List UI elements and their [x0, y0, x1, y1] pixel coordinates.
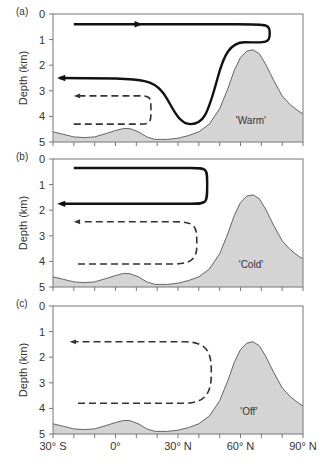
x-tick-label: 0° — [110, 440, 121, 452]
y-tick-label: 3 — [39, 85, 45, 97]
arrow-left-icon — [57, 201, 65, 207]
panel-a: 012345Depth (km)(a)'Warm' — [16, 6, 303, 148]
x-tick-label: 30° S — [39, 440, 66, 452]
deep-flow-dashed — [74, 342, 212, 404]
x-tick-label: 30° N — [164, 440, 192, 452]
panel-b: 012345Depth (km)(b)'Cold' — [16, 151, 303, 293]
panel-label: (c) — [16, 298, 28, 309]
x-tick-label: 90° N — [289, 440, 317, 452]
y-tick-label: 5 — [39, 428, 45, 440]
y-tick-label: 3 — [39, 230, 45, 242]
y-tick-label: 5 — [39, 281, 45, 293]
arrow-right-icon — [134, 21, 142, 27]
y-tick-label: 0 — [39, 300, 45, 312]
y-tick-label: 3 — [39, 377, 45, 389]
panel-label: (b) — [16, 151, 28, 162]
arrow-left-icon — [74, 219, 80, 224]
arrow-left-icon — [70, 339, 76, 344]
y-tick-label: 1 — [39, 326, 45, 338]
y-tick-label: 4 — [39, 402, 45, 414]
panels: 012345Depth (km)(a)'Warm'012345Depth (km… — [16, 6, 317, 452]
y-tick-label: 0 — [39, 8, 45, 20]
y-tick-label: 4 — [39, 110, 45, 122]
y-tick-label: 2 — [39, 351, 45, 363]
y-tick-label: 2 — [39, 59, 45, 71]
y-tick-label: 1 — [39, 34, 45, 46]
deep-flow-dashed — [78, 222, 197, 264]
mode-label: 'Warm' — [236, 115, 266, 126]
y-tick-label: 2 — [39, 204, 45, 216]
arrow-left-icon — [57, 75, 65, 81]
y-axis-label: Depth (km) — [17, 51, 29, 105]
y-tick-label: 5 — [39, 136, 45, 148]
mode-label: 'Off' — [240, 406, 257, 417]
panel-label: (a) — [16, 6, 28, 17]
panel-c: 012345Depth (km)(c)'Off'30° S0°30° N60° … — [16, 298, 317, 452]
ocean-circulation-figure: 012345Depth (km)(a)'Warm'012345Depth (km… — [0, 0, 322, 470]
mode-label: 'Cold' — [239, 259, 263, 270]
y-tick-label: 1 — [39, 179, 45, 191]
y-axis-label: Depth (km) — [17, 343, 29, 397]
arrow-left-icon — [74, 93, 80, 98]
y-tick-label: 0 — [39, 153, 45, 165]
y-tick-label: 4 — [39, 255, 45, 267]
y-axis-label: Depth (km) — [17, 196, 29, 250]
x-tick-label: 60° N — [227, 440, 255, 452]
deep-flow-dashed — [74, 96, 151, 124]
overturning-flow-solid — [61, 168, 207, 204]
